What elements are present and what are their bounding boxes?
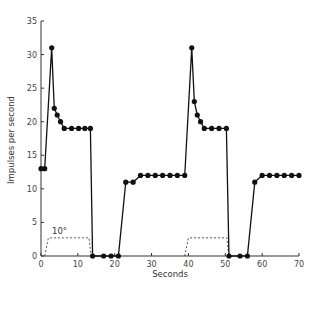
x-tick-label: 10 bbox=[73, 260, 83, 269]
data-point bbox=[160, 173, 165, 178]
data-point bbox=[101, 253, 106, 258]
data-point bbox=[131, 180, 136, 185]
data-point bbox=[267, 173, 272, 178]
data-point bbox=[252, 180, 257, 185]
data-point bbox=[282, 173, 287, 178]
x-tick-label: 0 bbox=[38, 260, 43, 269]
data-point bbox=[52, 106, 57, 111]
stimulus-annotation: 10° bbox=[52, 226, 67, 236]
impulse-series bbox=[38, 45, 301, 258]
data-point bbox=[245, 253, 250, 258]
data-point bbox=[167, 173, 172, 178]
data-point bbox=[226, 253, 231, 258]
data-point bbox=[209, 126, 214, 131]
y-tick-label: 35 bbox=[27, 17, 37, 26]
x-tick-label: 70 bbox=[294, 260, 304, 269]
data-point bbox=[55, 112, 60, 117]
data-point bbox=[88, 126, 93, 131]
data-point bbox=[145, 173, 150, 178]
data-point bbox=[224, 126, 229, 131]
data-point bbox=[198, 119, 203, 124]
data-point bbox=[62, 126, 67, 131]
data-point bbox=[69, 126, 74, 131]
y-tick-label: 25 bbox=[27, 84, 37, 93]
data-point bbox=[175, 173, 180, 178]
x-tick-label: 50 bbox=[220, 260, 230, 269]
data-point bbox=[123, 180, 128, 185]
stimulus-segment bbox=[45, 238, 91, 256]
y-tick-label: 0 bbox=[32, 252, 37, 261]
x-axis-title: Seconds bbox=[152, 269, 188, 279]
y-tick-label: 5 bbox=[32, 218, 37, 227]
impulse-line bbox=[41, 48, 299, 256]
data-point bbox=[189, 45, 194, 50]
data-point bbox=[108, 253, 113, 258]
data-point bbox=[202, 126, 207, 131]
x-tick-label: 20 bbox=[110, 260, 120, 269]
data-point bbox=[76, 126, 81, 131]
stimulus-segment bbox=[185, 238, 229, 256]
x-tick-label: 60 bbox=[257, 260, 267, 269]
y-tick-label: 10 bbox=[27, 185, 37, 194]
stimulus-trace bbox=[45, 238, 229, 256]
data-point bbox=[49, 45, 54, 50]
data-point bbox=[216, 126, 221, 131]
data-point bbox=[82, 126, 87, 131]
x-tick-label: 30 bbox=[146, 260, 156, 269]
data-point bbox=[192, 99, 197, 104]
x-tick-label: 40 bbox=[183, 260, 193, 269]
data-point bbox=[289, 173, 294, 178]
y-axis-title: Impulses per second bbox=[6, 96, 16, 184]
data-point bbox=[182, 173, 187, 178]
data-point bbox=[296, 173, 301, 178]
data-point bbox=[195, 112, 200, 117]
y-tick-label: 20 bbox=[27, 118, 37, 127]
chart: 05101520253035010203040506070 10° Second… bbox=[0, 0, 318, 321]
y-tick-label: 30 bbox=[27, 51, 37, 60]
data-point bbox=[116, 253, 121, 258]
data-point bbox=[237, 253, 242, 258]
data-point bbox=[42, 166, 47, 171]
y-tick-label: 15 bbox=[27, 151, 37, 160]
data-point bbox=[58, 119, 63, 124]
axes: 05101520253035010203040506070 bbox=[27, 17, 304, 269]
data-point bbox=[260, 173, 265, 178]
data-point bbox=[274, 173, 279, 178]
data-point bbox=[90, 253, 95, 258]
data-point bbox=[138, 173, 143, 178]
data-point bbox=[153, 173, 158, 178]
